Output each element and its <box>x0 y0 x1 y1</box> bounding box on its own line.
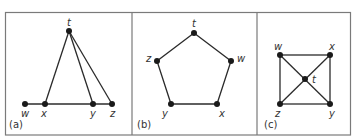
panel-label-c: (c) <box>264 119 277 130</box>
edge-t-x <box>45 31 69 104</box>
node-label-y: y <box>89 108 97 119</box>
node-t <box>302 76 308 82</box>
node-z <box>154 58 160 64</box>
node-w <box>277 52 283 58</box>
node-label-t: t <box>312 74 317 85</box>
node-label-w: w <box>237 53 246 64</box>
node-x <box>214 101 220 107</box>
panel-label-a: (a) <box>9 119 23 130</box>
node-label-z: z <box>109 108 116 119</box>
node-t <box>191 30 197 36</box>
panel-a: t w x y z (a) <box>9 17 116 130</box>
node-t <box>66 28 72 34</box>
node-label-w: w <box>21 108 30 119</box>
pentagon-edges <box>157 33 231 104</box>
node-label-t: t <box>192 18 197 29</box>
edge-t-y <box>69 31 93 104</box>
node-label-y: y <box>161 108 169 119</box>
node-x <box>42 101 48 107</box>
graph-figure: t w x y z (a) t w x y z (b) w x t z y (c… <box>0 0 356 140</box>
node-y <box>168 101 174 107</box>
node-w <box>228 58 234 64</box>
node-label-t: t <box>67 17 72 28</box>
node-label-z: z <box>274 108 281 119</box>
node-z <box>277 101 283 107</box>
panel-b: t w x y z (b) <box>137 18 246 130</box>
node-label-z: z <box>145 53 152 64</box>
node-z <box>109 101 115 107</box>
panel-label-b: (b) <box>137 119 151 130</box>
node-y <box>327 101 333 107</box>
panel-c: w x t z y (c) <box>264 41 336 130</box>
node-x <box>327 52 333 58</box>
node-label-w: w <box>274 41 283 52</box>
node-label-x: x <box>40 108 47 119</box>
node-w <box>22 101 28 107</box>
node-y <box>90 101 96 107</box>
node-label-x: x <box>218 108 225 119</box>
node-label-x: x <box>328 41 335 52</box>
edge-t-z <box>69 31 112 104</box>
node-label-y: y <box>328 108 336 119</box>
